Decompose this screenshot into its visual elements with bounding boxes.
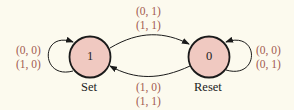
reset-self-loop-label: (0, 0) (0, 1): [256, 43, 281, 71]
set-self-loop-label-line1: (0, 0): [16, 43, 41, 57]
reset-to-set-label-line1: (1, 0): [136, 80, 161, 94]
set-to-reset-label-line2: (1, 1): [136, 18, 161, 32]
state-reset-caption: Reset: [194, 80, 222, 95]
state-set-caption: Set: [81, 80, 97, 95]
set-self-loop-label-line2: (1, 0): [16, 57, 41, 71]
set-to-reset-arrow: [110, 35, 189, 48]
state-reset-value: 0: [199, 49, 219, 64]
reset-to-set-arrow: [110, 66, 190, 77]
reset-to-set-label: (1, 0) (1, 1): [136, 80, 161, 108]
set-to-reset-label: (0, 1) (1, 1): [136, 4, 161, 32]
set-to-reset-label-line1: (0, 1): [136, 4, 161, 18]
reset-self-loop-label-line1: (0, 0): [256, 43, 281, 57]
set-self-loop-label: (0, 0) (1, 0): [16, 43, 41, 71]
reset-self-loop-label-line2: (0, 1): [256, 57, 281, 71]
state-set-value: 1: [80, 49, 100, 64]
reset-to-set-label-line2: (1, 1): [136, 94, 161, 108]
